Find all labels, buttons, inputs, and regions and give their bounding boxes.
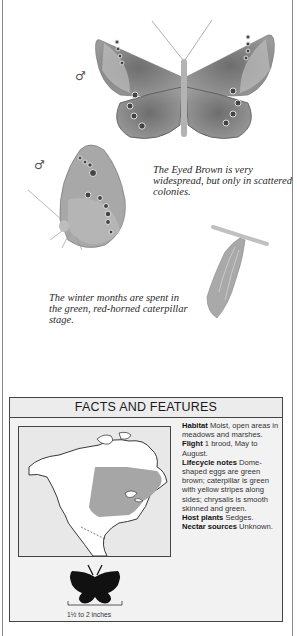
fact-nectar-sources: Nectar sources Unknown. — [182, 522, 282, 531]
butterfly-upperside-illustration — [90, 15, 280, 145]
fact-label: Lifecycle notes — [182, 458, 237, 467]
fact-value: Unknown. — [239, 522, 273, 531]
fact-lifecycle: Lifecycle notes Dome-shaped eggs are gre… — [182, 458, 282, 513]
fact-label: Flight — [182, 439, 203, 448]
butterfly-underside-illustration — [20, 140, 140, 255]
caption-winter: The winter months are spent in the green… — [49, 292, 189, 325]
fact-value: Sedges. — [225, 513, 253, 522]
north-america-map — [19, 427, 170, 556]
male-symbol: ♂ — [75, 69, 86, 83]
range-map — [18, 426, 171, 557]
butterfly-size-silhouette-icon — [66, 563, 126, 611]
facts-title: FACTS AND FEATURES — [10, 398, 282, 418]
fact-habitat: Habitat Moist, open areas in meadows and… — [182, 421, 282, 439]
size-label: 1½ to 2 inches — [67, 611, 127, 618]
fact-flight: Flight 1 brood, May to August. — [182, 439, 282, 457]
chrysalis-illustration — [195, 222, 270, 332]
facts-text: Habitat Moist, open areas in meadows and… — [182, 421, 282, 531]
fact-label: Nectar sources — [182, 522, 237, 531]
fact-host-plants: Host plants Sedges. — [182, 513, 282, 522]
fact-label: Host plants — [182, 513, 223, 522]
facts-and-features-box: FACTS AND FEATURES Habitat Moist, open a… — [9, 397, 283, 622]
caption-eyed-brown: The Eyed Brown is very widespread, but o… — [153, 164, 293, 197]
fact-label: Habitat — [182, 421, 208, 430]
right-margin-rule — [292, 0, 293, 636]
left-margin-rule — [2, 0, 3, 636]
fact-value: Dome-shaped eggs are green brown; caterp… — [182, 458, 269, 513]
